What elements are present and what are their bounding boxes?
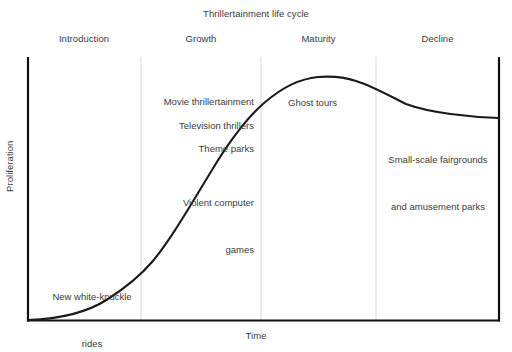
annotation-line: Violent computer: [146, 195, 254, 211]
annotation-line: New white-knuckle: [34, 289, 150, 305]
chart-figure: Thrillertainment life cycle Introduction…: [0, 0, 512, 352]
y-axis-title: Proliferation: [4, 126, 17, 206]
stage-label-decline: Decline: [376, 33, 499, 46]
x-axis-title: Time: [206, 330, 306, 343]
annotation-theme-parks: Theme parks: [146, 141, 254, 157]
chart-title: Thrillertainment life cycle: [0, 8, 512, 21]
annotation-new-white-knuckle-rides: New white-knuckle rides: [34, 258, 150, 352]
stage-label-maturity: Maturity: [261, 33, 376, 46]
stage-label-introduction: Introduction: [27, 33, 141, 46]
annotation-line: Small-scale fairgrounds: [379, 152, 497, 168]
annotation-ghost-tours: Ghost tours: [288, 95, 337, 111]
annotation-small-scale-fairgrounds: Small-scale fairgrounds and amusement pa…: [379, 121, 497, 245]
annotation-movie-thrillertainment: Movie thrillertainment: [146, 94, 254, 110]
annotation-line: rides: [34, 336, 150, 352]
annotation-line: games: [146, 242, 254, 258]
annotation-violent-computer-games: Violent computer games: [146, 164, 254, 288]
annotation-line: and amusement parks: [379, 199, 497, 215]
annotation-television-thrillers: Television thrillers: [146, 118, 254, 134]
stage-label-growth: Growth: [141, 33, 261, 46]
